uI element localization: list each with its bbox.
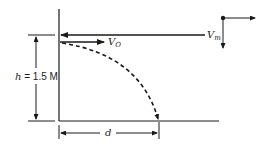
trajectory-path bbox=[62, 43, 158, 119]
height-label: h = 1.5 M bbox=[15, 71, 58, 82]
vo-label: VO bbox=[108, 36, 121, 49]
vm-label: Vm bbox=[207, 29, 221, 42]
distance-label: d bbox=[105, 127, 111, 138]
projectile-diagram: Vm VO h = 1.5 M d bbox=[0, 0, 265, 149]
coordinate-axes-icon bbox=[221, 16, 255, 48]
